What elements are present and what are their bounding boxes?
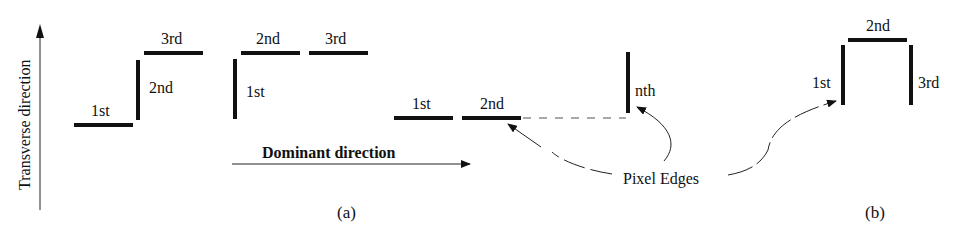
panel-b: 1st 2nd 3rd (b) bbox=[812, 17, 939, 222]
pixel-edges-annotation: Pixel Edges bbox=[508, 101, 836, 188]
edge-group-3: 1st 2nd nth bbox=[394, 52, 655, 118]
arrow-to-b-1st-icon bbox=[728, 101, 836, 175]
pointer-curve bbox=[552, 152, 612, 174]
edge-label-2nd: 2nd bbox=[866, 17, 890, 34]
caption-b: (b) bbox=[865, 203, 885, 222]
dominant-axis-label: Dominant direction bbox=[262, 144, 396, 161]
pixel-edges-label: Pixel Edges bbox=[623, 170, 699, 188]
arrow-up-icon bbox=[36, 24, 44, 38]
edge-label-3rd: 3rd bbox=[918, 74, 939, 91]
edge-label-2nd: 2nd bbox=[480, 95, 504, 112]
edge-label-1st: 1st bbox=[246, 83, 265, 100]
edge-label-1st: 1st bbox=[412, 95, 431, 112]
edge-label-2nd: 2nd bbox=[256, 30, 280, 47]
edge-group-2: 1st 2nd 3rd bbox=[235, 30, 368, 119]
pixel-edges-diagram: Transverse direction 1st 2nd 3rd 1st 2nd… bbox=[0, 0, 960, 229]
caption-a: (a) bbox=[337, 203, 356, 222]
edge-label-1st: 1st bbox=[812, 74, 831, 91]
edge-label-3rd: 3rd bbox=[325, 30, 346, 47]
transverse-axis: Transverse direction bbox=[16, 24, 44, 210]
edge-label-3rd: 3rd bbox=[161, 30, 182, 47]
arrow-to-2nd-icon bbox=[508, 124, 541, 147]
edge-label-nth: nth bbox=[635, 82, 655, 99]
transverse-axis-label: Transverse direction bbox=[16, 60, 33, 191]
edge-label-2nd: 2nd bbox=[149, 79, 173, 96]
edge-group-1: 1st 2nd 3rd bbox=[74, 30, 203, 125]
edge-label-1st: 1st bbox=[91, 102, 110, 119]
arrow-to-nth-icon bbox=[637, 107, 671, 161]
dominant-axis: Dominant direction bbox=[232, 144, 470, 164]
